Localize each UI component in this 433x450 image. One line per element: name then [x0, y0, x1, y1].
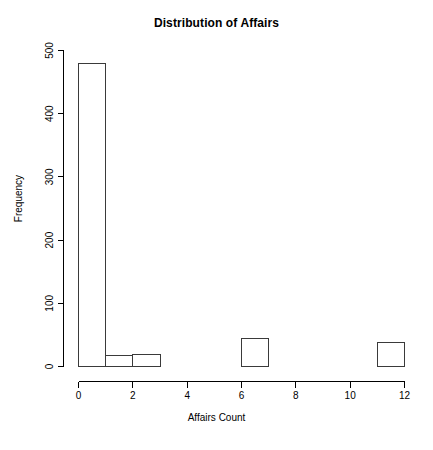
histogram-bar — [242, 338, 269, 366]
x-tick-label-4: 4 — [184, 390, 190, 401]
x-tick-label-6: 6 — [239, 390, 245, 401]
histogram-bar — [133, 354, 160, 366]
x-tick-label-12: 12 — [399, 390, 411, 401]
histogram-figure: Distribution of Affairs 0 100 200 300 40… — [0, 0, 433, 450]
y-axis-tick-labels: 0 100 200 300 400 500 — [44, 42, 55, 370]
histogram-bar — [79, 63, 106, 366]
histogram-bars — [79, 63, 405, 366]
x-axis-tick-labels: 024681012 — [76, 390, 411, 401]
histogram-bar — [106, 356, 133, 367]
x-axis-ticks — [79, 382, 405, 388]
y-axis-title: Frequency — [13, 159, 24, 239]
x-axis: 024681012 — [76, 382, 411, 402]
x-axis-title: Affairs Count — [0, 412, 433, 423]
y-axis: 0 100 200 300 400 500 — [44, 42, 64, 370]
y-tick-label-0: 0 — [44, 363, 55, 369]
y-tick-label-100: 100 — [44, 295, 55, 312]
x-tick-label-8: 8 — [293, 390, 299, 401]
histogram-bar — [377, 342, 404, 366]
x-tick-label-10: 10 — [345, 390, 357, 401]
x-tick-label-0: 0 — [76, 390, 82, 401]
y-tick-label-500: 500 — [44, 42, 55, 59]
y-tick-label-200: 200 — [44, 231, 55, 248]
x-tick-label-2: 2 — [130, 390, 136, 401]
y-axis-ticks — [58, 51, 64, 367]
histogram-plot-area: 0 100 200 300 400 500 024681012 — [0, 0, 433, 450]
y-tick-label-300: 300 — [44, 168, 55, 185]
y-tick-label-400: 400 — [44, 105, 55, 122]
